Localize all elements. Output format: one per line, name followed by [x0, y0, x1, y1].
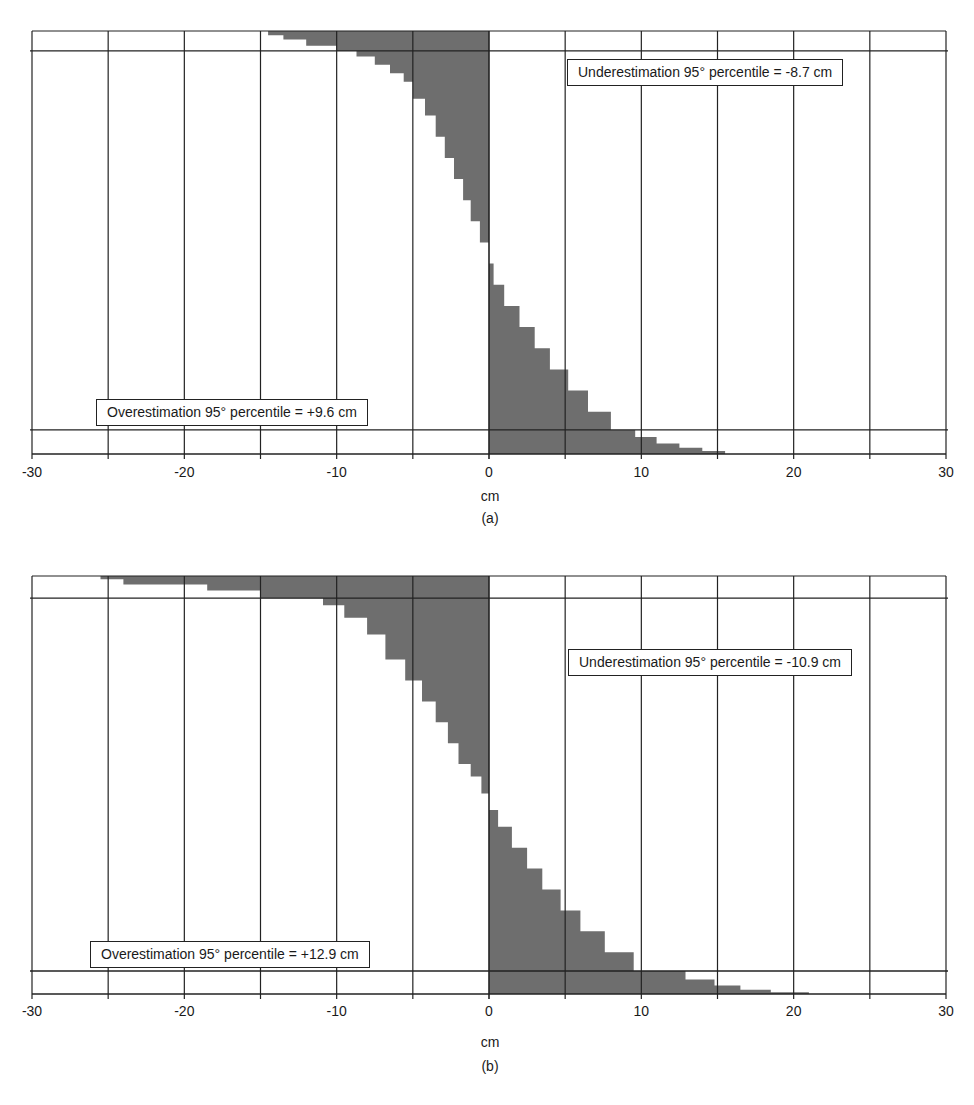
x-tick-label: 20	[786, 1003, 802, 1019]
error-distribution-area	[101, 576, 840, 994]
caption-a: (a)	[481, 510, 498, 526]
chart-panel-a: Underestimation 95° percentile = -8.7 cm…	[0, 0, 974, 530]
chart-panel-b: Underestimation 95° percentile = -10.9 c…	[0, 545, 974, 1105]
x-tick-label: 30	[938, 464, 954, 480]
x-tick-label: -30	[22, 464, 42, 480]
x-tick-label: -30	[22, 1003, 42, 1019]
x-tick-label: 10	[634, 1003, 650, 1019]
x-tick-label: -10	[327, 464, 347, 480]
x-axis-title-b: cm	[481, 1034, 500, 1050]
underestimation-annotation-a: Underestimation 95° percentile = -8.7 cm	[567, 59, 843, 86]
x-tick-label: 20	[786, 464, 802, 480]
overestimation-annotation-b: Overestimation 95° percentile = +12.9 cm	[90, 941, 370, 968]
caption-b: (b)	[481, 1058, 498, 1074]
x-tick-label: 0	[485, 1003, 493, 1019]
x-tick-label: -10	[327, 1003, 347, 1019]
x-tick-label: 0	[485, 464, 493, 480]
x-tick-label: -20	[174, 1003, 194, 1019]
overestimation-annotation-a: Overestimation 95° percentile = +9.6 cm	[96, 399, 368, 426]
chart-plot-b	[0, 545, 974, 1105]
x-tick-label: 10	[634, 464, 650, 480]
x-tick-label: -20	[174, 464, 194, 480]
x-tick-label: 30	[938, 1003, 954, 1019]
x-axis-title-a: cm	[481, 488, 500, 504]
error-distribution-area	[268, 31, 794, 454]
underestimation-annotation-b: Underestimation 95° percentile = -10.9 c…	[568, 649, 852, 676]
